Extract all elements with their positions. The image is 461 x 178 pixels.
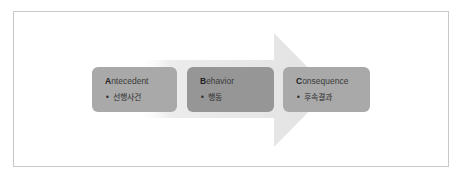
step-title: Antecedent xyxy=(105,76,177,87)
step-consequence: Consequence •후속결과 xyxy=(283,67,370,112)
step-subtitle-text: 후속결과 xyxy=(304,93,332,102)
step-subtitle-text: 행동 xyxy=(208,93,222,102)
step-title-rest: ntecedent xyxy=(111,76,148,86)
bullet-icon: • xyxy=(296,93,301,103)
step-subtitle: •행동 xyxy=(200,93,274,103)
step-behavior: Behavior •행동 xyxy=(187,67,274,112)
step-title-rest: onsequence xyxy=(302,76,348,86)
step-title: Consequence xyxy=(296,76,370,87)
step-title: Behavior xyxy=(200,76,274,87)
step-title-rest: ehavior xyxy=(206,76,234,86)
step-subtitle: •선행사건 xyxy=(105,93,177,103)
bullet-icon: • xyxy=(105,93,110,103)
step-subtitle-text: 선행사건 xyxy=(113,93,141,102)
step-subtitle: •후속결과 xyxy=(296,93,370,103)
step-antecedent: Antecedent •선행사건 xyxy=(92,67,177,112)
bullet-icon: • xyxy=(200,93,205,103)
